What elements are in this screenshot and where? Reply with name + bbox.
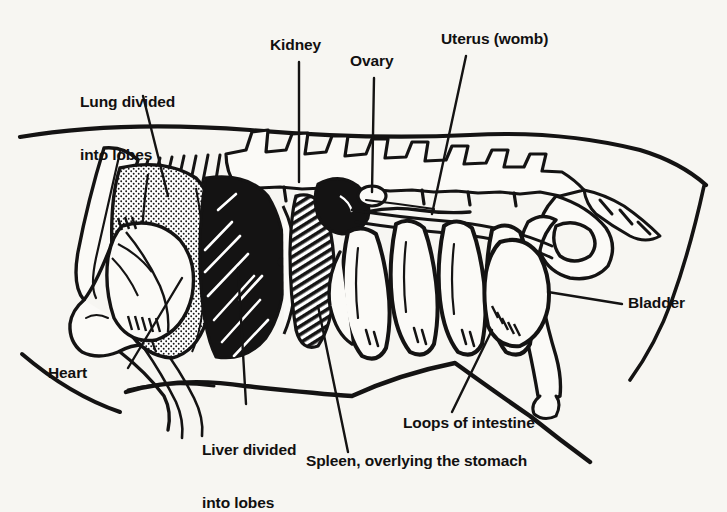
label-ovary: Ovary xyxy=(350,52,393,70)
label-intestine: Loops of intestine xyxy=(403,414,535,432)
label-uterus: Uterus (womb) xyxy=(441,30,548,48)
label-lung-line1: Lung divided xyxy=(80,93,175,111)
label-lung: Lung divided into lobes xyxy=(80,58,175,181)
label-heart: Heart xyxy=(48,364,87,382)
label-liver-line2: into lobes xyxy=(202,494,296,512)
label-liver-line1: Liver divided xyxy=(202,441,296,459)
liver-notch xyxy=(278,257,284,266)
label-liver: Liver divided into lobes xyxy=(202,406,296,512)
organ-kidney xyxy=(315,178,369,234)
organ-bladder xyxy=(484,240,549,346)
label-lung-line2: into lobes xyxy=(80,146,175,164)
label-bladder: Bladder xyxy=(628,294,685,312)
label-spleen: Spleen, overlying the stomach xyxy=(306,452,527,470)
label-kidney: Kidney xyxy=(270,36,321,54)
